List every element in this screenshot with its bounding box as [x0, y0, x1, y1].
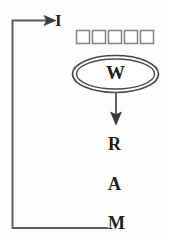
diagram-vector-layer — [0, 0, 169, 241]
node-label-r: R — [108, 135, 121, 153]
diagram-canvas: I W R A M — [0, 0, 169, 241]
w-to-r-connector — [111, 92, 122, 125]
node-label-i: I — [55, 12, 62, 29]
node-label-m: M — [108, 214, 125, 232]
square-row-shapes — [77, 31, 154, 44]
feedback-loop-connector — [13, 16, 108, 229]
node-label-a: A — [108, 175, 121, 193]
node-label-w: W — [106, 63, 125, 82]
